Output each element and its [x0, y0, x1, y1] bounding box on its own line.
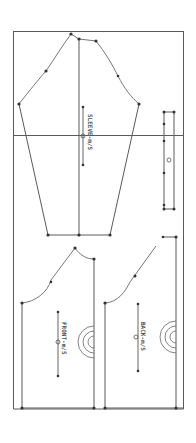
front-label: FRONT-m/S: [61, 322, 68, 355]
pattern-layout-canvas: SLEEVE-m/S FRONT-m/S: [0, 0, 196, 443]
back-piece[interactable]: BACK-m/S: [103, 235, 183, 409]
sleeve-piece[interactable]: SLEEVE-m/S: [17, 32, 140, 236]
sleeve-label: SLEEVE-m/S: [87, 114, 94, 151]
strip-center-mark: [167, 158, 171, 162]
back-center-mark: [134, 335, 138, 339]
front-dart-mark: [78, 326, 94, 358]
front-piece[interactable]: FRONT-m/S: [20, 246, 95, 409]
layout-frame: [14, 32, 184, 136]
back-dart-mark: [160, 321, 176, 353]
back-label: BACK-m/S: [140, 322, 147, 351]
strip-piece[interactable]: [163, 111, 176, 211]
